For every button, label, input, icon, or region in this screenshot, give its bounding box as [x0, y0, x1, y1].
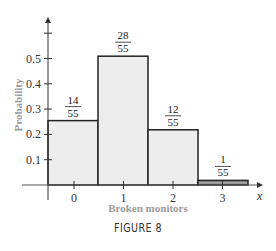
y-tick-label: 0.5	[26, 52, 41, 66]
value-label-num: 12	[168, 103, 179, 115]
x-axis-label: Broken monitors	[108, 202, 188, 214]
y-tick-label: 0.4	[26, 77, 41, 91]
value-label-num: 1	[220, 153, 226, 165]
y-tick-label: 0.3	[26, 102, 41, 116]
value-label-den: 55	[118, 42, 130, 54]
value-label-den: 55	[218, 166, 230, 178]
figure-caption: FIGURE 8	[28, 221, 249, 235]
bar-1	[98, 56, 148, 185]
y-axis-label: Probability	[12, 78, 24, 131]
y-tick-label: 0.2	[26, 127, 41, 141]
value-label-den: 55	[168, 116, 180, 128]
x-tick-label: 3	[220, 191, 226, 205]
bar-0	[48, 121, 98, 185]
bar-2	[148, 130, 198, 185]
value-label-num: 28	[118, 29, 130, 41]
y-tick-label: 0.1	[26, 153, 41, 167]
x-axis-symbol: x	[256, 189, 263, 203]
histogram-chart: 0.10.20.30.40.5 0123 145528551255155 x B…	[0, 0, 276, 251]
x-tick-label: 0	[71, 191, 77, 205]
value-label-num: 14	[68, 94, 80, 106]
value-label-den: 55	[68, 107, 80, 119]
